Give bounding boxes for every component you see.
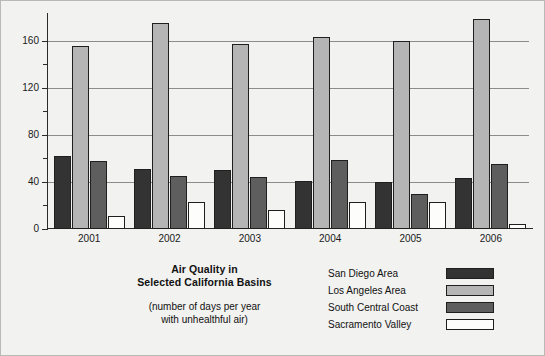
bar-group-2004 xyxy=(295,17,366,229)
x-tick-label-2006: 2006 xyxy=(461,233,521,244)
x-tick-label-2003: 2003 xyxy=(220,233,280,244)
bar-2002-series-2[interactable] xyxy=(170,176,187,229)
bar-2006-series-1[interactable] xyxy=(473,19,490,229)
y-tick-major-120 xyxy=(42,88,48,89)
legend-label-0: San Diego Area xyxy=(328,268,446,280)
x-tick-label-2002: 2002 xyxy=(140,233,200,244)
chart-title-block: Air Quality in Selected California Basin… xyxy=(97,263,312,326)
chart-figure: 04080120160 200120022003200420052006 Air… xyxy=(0,0,545,356)
y-tick-label-40: 40 xyxy=(7,177,39,187)
bar-2003-series-2[interactable] xyxy=(250,177,267,229)
bar-group-2005 xyxy=(375,17,446,229)
bar-2002-series-3[interactable] xyxy=(188,202,205,229)
chart-subtitle-line-1: (number of days per year xyxy=(97,300,312,313)
legend-swatch-2 xyxy=(446,302,494,313)
bar-group-2003 xyxy=(214,17,285,229)
y-axis-labels: 04080120160 xyxy=(1,17,39,229)
bar-2002-series-1[interactable] xyxy=(152,23,169,229)
bar-2006-series-3[interactable] xyxy=(509,224,526,229)
y-tick-label-160: 160 xyxy=(7,36,39,46)
legend-swatch-1 xyxy=(446,285,494,296)
x-tick-label-2001: 2001 xyxy=(59,233,119,244)
bar-2003-series-3[interactable] xyxy=(268,210,285,229)
bar-2004-series-0[interactable] xyxy=(295,181,312,229)
bar-2004-series-1[interactable] xyxy=(313,37,330,229)
legend-swatch-0 xyxy=(446,268,494,279)
legend-item-0[interactable]: San Diego Area xyxy=(328,265,528,282)
y-axis-line xyxy=(47,13,48,229)
bar-2004-series-2[interactable] xyxy=(331,160,348,229)
y-tick-major-80 xyxy=(42,135,48,136)
bar-2005-series-3[interactable] xyxy=(429,202,446,229)
chart-title-line-2: Selected California Basins xyxy=(97,276,312,289)
bar-2001-series-1[interactable] xyxy=(72,46,89,229)
bar-2005-series-0[interactable] xyxy=(375,182,392,229)
y-tick-minor-100 xyxy=(43,111,48,112)
bar-2003-series-0[interactable] xyxy=(214,170,231,229)
y-tick-major-40 xyxy=(42,182,48,183)
bar-2001-series-3[interactable] xyxy=(108,216,125,229)
bar-2005-series-1[interactable] xyxy=(393,41,410,229)
legend-label-1: Los Angeles Area xyxy=(328,285,446,297)
bar-2001-series-2[interactable] xyxy=(90,161,107,229)
y-tick-major-0 xyxy=(42,229,48,230)
bar-2005-series-2[interactable] xyxy=(411,194,428,229)
x-tick-label-2005: 2005 xyxy=(381,233,441,244)
bar-2006-series-0[interactable] xyxy=(455,178,472,229)
legend-label-3: Sacramento Valley xyxy=(328,319,446,331)
bar-group-2006 xyxy=(455,17,526,229)
bar-group-2002 xyxy=(134,17,205,229)
y-tick-major-160 xyxy=(42,41,48,42)
legend-item-3[interactable]: Sacramento Valley xyxy=(328,316,528,333)
y-tick-label-0: 0 xyxy=(7,224,39,234)
legend-label-2: South Central Coast xyxy=(328,302,446,314)
chart-subtitle-line-2: with unhealthful air) xyxy=(97,313,312,326)
bar-2004-series-3[interactable] xyxy=(349,202,366,229)
x-tick-label-2004: 2004 xyxy=(300,233,360,244)
y-tick-label-80: 80 xyxy=(7,130,39,140)
bar-2003-series-1[interactable] xyxy=(232,44,249,229)
bar-group-2001 xyxy=(54,17,125,229)
legend-item-1[interactable]: Los Angeles Area xyxy=(328,282,528,299)
y-tick-minor-140 xyxy=(43,64,48,65)
y-tick-label-120: 120 xyxy=(7,83,39,93)
plot-area xyxy=(47,17,529,229)
legend-swatch-3 xyxy=(446,319,494,330)
chart-subtitle-block: (number of days per year with unhealthfu… xyxy=(97,300,312,326)
bar-2006-series-2[interactable] xyxy=(491,164,508,229)
bar-2001-series-0[interactable] xyxy=(54,156,71,229)
chart-title-line-1: Air Quality in xyxy=(97,263,312,276)
chart-legend: San Diego AreaLos Angeles AreaSouth Cent… xyxy=(328,265,528,333)
y-tick-minor-20 xyxy=(43,205,48,206)
bar-2002-series-0[interactable] xyxy=(134,169,151,229)
legend-item-2[interactable]: South Central Coast xyxy=(328,299,528,316)
x-axis-labels: 200120022003200420052006 xyxy=(47,233,529,247)
y-tick-minor-60 xyxy=(43,158,48,159)
